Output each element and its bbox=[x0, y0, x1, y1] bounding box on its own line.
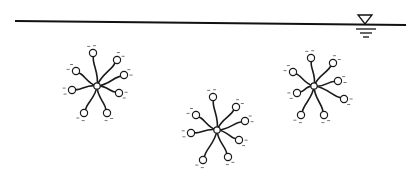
hydrophilic-head bbox=[293, 89, 300, 96]
hydrophobic-tail bbox=[314, 86, 341, 98]
hydrophilic-head bbox=[224, 153, 231, 160]
hydrophilic-head bbox=[199, 156, 206, 163]
hydrophilic-head bbox=[334, 77, 341, 84]
hydrophilic-head bbox=[320, 111, 327, 118]
hydrophilic-head bbox=[289, 68, 296, 75]
hydrophilic-head bbox=[241, 117, 248, 124]
hydrophobic-tail bbox=[213, 101, 217, 130]
hydrophobic-tail bbox=[97, 76, 121, 86]
hydrophilic-head bbox=[235, 136, 242, 143]
hydrophilic-head bbox=[340, 95, 347, 102]
hydrophilic-head bbox=[72, 67, 79, 74]
hydrophilic-head bbox=[187, 129, 194, 136]
hydrophobic-tail bbox=[97, 63, 115, 86]
hydrophobic-tail bbox=[93, 57, 97, 86]
micelle-core bbox=[214, 127, 220, 133]
hydrophobic-tail bbox=[86, 86, 97, 110]
hydrophilic-head bbox=[232, 103, 239, 110]
hydrophilic-head bbox=[307, 54, 314, 61]
micelle-3 bbox=[284, 51, 353, 123]
hydrophobic-tail bbox=[314, 86, 323, 112]
hydrophilic-head bbox=[209, 93, 216, 100]
micelle-1 bbox=[63, 46, 133, 121]
hydrophilic-head bbox=[192, 111, 199, 118]
water-level-icon bbox=[356, 15, 376, 37]
micelle-diagram bbox=[0, 0, 420, 178]
micelle-group bbox=[63, 46, 353, 168]
hydrophilic-head bbox=[103, 109, 110, 116]
hydrophobic-tail bbox=[217, 130, 227, 154]
hydrophobic-tail bbox=[205, 130, 218, 157]
hydrophilic-head bbox=[115, 89, 122, 96]
water-surface-line bbox=[15, 21, 406, 25]
micelle-2 bbox=[182, 90, 254, 168]
hydrophilic-head bbox=[80, 109, 87, 116]
hydrophilic-head bbox=[68, 86, 75, 93]
hydrophobic-tail bbox=[217, 110, 234, 130]
hydrophilic-head bbox=[120, 71, 127, 78]
micelle-core bbox=[311, 83, 317, 89]
hydrophilic-head bbox=[113, 56, 120, 63]
hydrophilic-head bbox=[297, 111, 304, 118]
hydrophilic-head bbox=[329, 59, 336, 66]
hydrophilic-head bbox=[89, 49, 96, 56]
micelle-core bbox=[94, 83, 100, 89]
